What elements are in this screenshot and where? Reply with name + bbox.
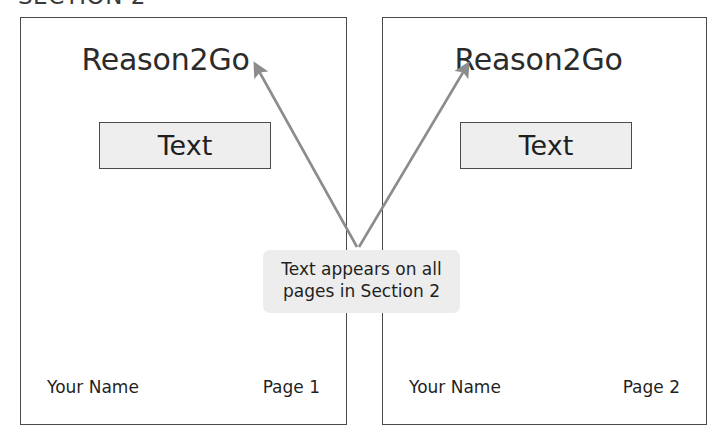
page-header-text: Reason2Go — [383, 42, 706, 77]
page-body-text-label: Text — [519, 130, 574, 161]
footer-left-text: Your Name — [409, 377, 501, 397]
footer-left-text: Your Name — [47, 377, 139, 397]
page-footer: Your Name Page 1 — [47, 377, 320, 397]
page-body-text-label: Text — [158, 130, 213, 161]
page-preview-2: Reason2Go Text Your Name Page 2 — [382, 17, 707, 425]
callout-label: Text appears on all pages in Section 2 — [263, 250, 460, 313]
page-body-text-box: Text — [99, 122, 271, 169]
section-heading: SECTION 2 — [18, 0, 146, 7]
footer-right-page-number: Page 1 — [263, 377, 320, 397]
page-body-text-box: Text — [460, 122, 632, 169]
page-header-text: Reason2Go — [21, 42, 346, 77]
footer-right-page-number: Page 2 — [623, 377, 680, 397]
page-preview-1: Reason2Go Text Your Name Page 1 — [20, 17, 347, 425]
page-footer: Your Name Page 2 — [409, 377, 680, 397]
